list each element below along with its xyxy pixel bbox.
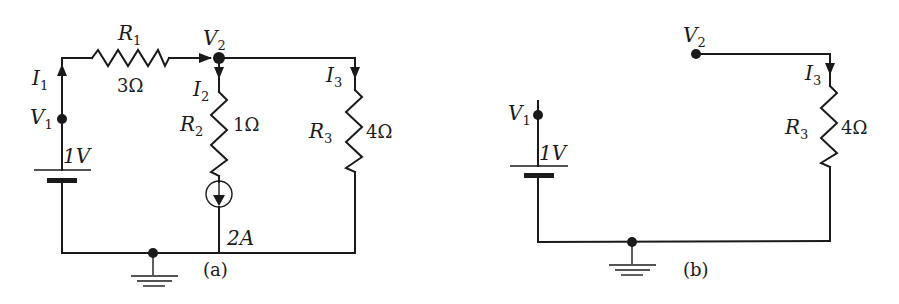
battery-a bbox=[34, 170, 91, 183]
current-arrow-i3-b bbox=[825, 63, 835, 75]
label-r3-a: R3 bbox=[308, 119, 332, 146]
current-arrow-i3-a bbox=[350, 67, 360, 79]
label-v2-b: V2 bbox=[683, 23, 706, 50]
label-v1-a: V1 bbox=[30, 105, 53, 132]
current-source-2a bbox=[206, 181, 232, 207]
resistor-r1 bbox=[92, 50, 169, 66]
circuit-a: R1 3Ω V2 I1 V1 1V I2 R2 1Ω 2A I3 R3 4Ω (… bbox=[30, 21, 392, 286]
caption-b: (b) bbox=[683, 259, 709, 280]
label-battery-a: 1V bbox=[63, 144, 93, 168]
label-v2-a: V2 bbox=[203, 26, 226, 53]
resistor-r3-b bbox=[821, 86, 837, 167]
battery-short-plate bbox=[47, 178, 77, 183]
label-r1: R1 bbox=[117, 21, 141, 48]
label-i2: I2 bbox=[192, 77, 209, 104]
resistor-r2 bbox=[211, 92, 227, 176]
label-r2: R2 bbox=[179, 112, 203, 139]
current-source-arrow-icon bbox=[213, 195, 225, 206]
label-i1: I1 bbox=[31, 66, 48, 93]
value-r2: 1Ω bbox=[233, 114, 259, 135]
value-r3-b: 4Ω bbox=[841, 117, 867, 138]
label-battery-b: 1V bbox=[539, 141, 569, 165]
current-arrow-into-v2 bbox=[199, 53, 212, 63]
wire-bottom-b bbox=[538, 241, 830, 242]
value-r3-a: 4Ω bbox=[366, 121, 392, 142]
caption-a: (a) bbox=[203, 259, 228, 280]
label-current-source: 2A bbox=[226, 226, 254, 250]
label-v1-b: V1 bbox=[508, 101, 531, 128]
circuit-diagram: R1 3Ω V2 I1 V1 1V I2 R2 1Ω 2A I3 R3 4Ω (… bbox=[0, 0, 899, 304]
node-v1-a bbox=[57, 114, 67, 124]
value-r1: 3Ω bbox=[117, 75, 143, 96]
current-arrow-i1 bbox=[57, 64, 67, 76]
label-i3-b: I3 bbox=[804, 61, 821, 88]
label-r3-b: R3 bbox=[784, 115, 808, 142]
circuit-b: V2 I3 R3 4Ω V1 1V (b) bbox=[508, 23, 867, 280]
battery-short-plate-b bbox=[524, 173, 554, 178]
current-arrow-i2 bbox=[214, 67, 224, 79]
battery-b bbox=[510, 166, 568, 178]
node-v1-b bbox=[533, 110, 543, 120]
label-i3-a: I3 bbox=[325, 63, 342, 90]
resistor-r3-a bbox=[346, 90, 362, 172]
